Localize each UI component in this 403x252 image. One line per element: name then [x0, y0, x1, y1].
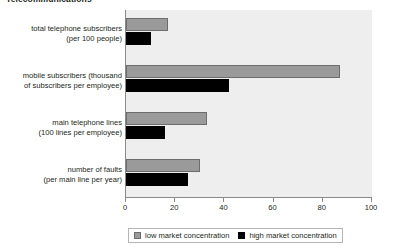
bar-high-3	[126, 173, 188, 186]
chart-legend: low market concentration high market con…	[128, 228, 343, 243]
x-axis-tick-label: 20	[161, 203, 187, 212]
x-axis-tick	[125, 198, 126, 202]
category-label-line: (per main line per year)	[2, 175, 122, 185]
legend-label-low: low market concentration	[145, 231, 229, 240]
category-label-3: number of faults (per main line per year…	[2, 165, 122, 184]
bar-low-0	[126, 18, 168, 31]
x-axis: 020406080100	[125, 198, 373, 218]
category-label-2: main telephone lines (100 lines per empl…	[2, 118, 122, 137]
x-axis-tick	[322, 198, 323, 202]
bar-group	[126, 104, 372, 151]
category-label-line: (100 lines per employee)	[2, 128, 122, 138]
legend-swatch-high-icon	[238, 232, 245, 239]
bar-group	[126, 57, 372, 104]
category-label-line: of subscribers per employee)	[2, 81, 122, 91]
plot-area	[125, 10, 372, 198]
category-label-line: mobile subscribers (thousand	[2, 71, 122, 81]
category-label-1: mobile subscribers (thousand of subscrib…	[2, 71, 122, 90]
category-label-line: number of faults	[2, 165, 122, 175]
x-axis-tick-label: 100	[358, 203, 384, 212]
chart-title: Telecommunications	[6, 0, 92, 4]
x-axis-tick	[273, 198, 274, 202]
category-label-line: main telephone lines	[2, 118, 122, 128]
category-label-line: total telephone subscribers	[2, 24, 122, 34]
legend-item-low: low market concentration	[134, 231, 229, 240]
x-axis-tick	[174, 198, 175, 202]
bar-group	[126, 151, 372, 198]
legend-item-high: high market concentration	[238, 231, 336, 240]
bar-low-1	[126, 65, 340, 78]
bar-high-1	[126, 79, 229, 92]
category-label-line: (per 100 people)	[2, 34, 122, 44]
x-axis-tick-label: 60	[260, 203, 286, 212]
chart-figure: Telecommunications total telephone subsc…	[0, 0, 403, 252]
bar-high-0	[126, 32, 151, 45]
legend-swatch-low-icon	[134, 232, 141, 239]
x-axis-tick	[371, 198, 372, 202]
bar-low-2	[126, 112, 207, 125]
bar-high-2	[126, 126, 165, 139]
legend-label-high: high market concentration	[249, 231, 336, 240]
bar-low-3	[126, 159, 200, 172]
x-axis-tick-label: 80	[309, 203, 335, 212]
x-axis-tick-label: 40	[210, 203, 236, 212]
x-axis-tick-label: 0	[112, 203, 138, 212]
bar-group	[126, 10, 372, 57]
x-axis-tick	[223, 198, 224, 202]
category-label-0: total telephone subscribers (per 100 peo…	[2, 24, 122, 43]
